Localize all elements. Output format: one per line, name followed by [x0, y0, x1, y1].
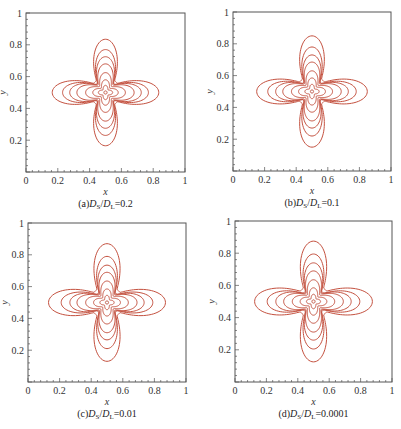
y-axis-label: y	[206, 299, 217, 305]
contour-line	[255, 241, 373, 362]
caption-d: (d)DS/DL=0.0001	[254, 408, 374, 421]
x-tick-label: 0.8	[354, 385, 367, 396]
y-tick-label: 1	[226, 216, 231, 227]
caption-prefix: (d)	[278, 408, 290, 419]
caption-value: =0.0001	[315, 408, 348, 419]
y-tick-label: 0.6	[219, 280, 232, 291]
y-tick-label: 0.2	[219, 344, 232, 355]
contour-line	[276, 263, 351, 340]
x-tick-label: 0.2	[260, 385, 273, 396]
x-axis-label: x	[310, 396, 316, 407]
x-tick-label: 0	[233, 385, 238, 396]
contour-line	[312, 300, 315, 303]
x-tick-label: 0.6	[323, 385, 336, 396]
contour-line	[267, 254, 360, 349]
x-tick-label: 0.4	[292, 385, 305, 396]
contour-line	[292, 280, 334, 323]
plot-frame	[235, 221, 392, 382]
x-tick-label: 1	[390, 385, 395, 396]
caption-num-sub: S	[297, 413, 301, 421]
y-tick-label: 0.4	[219, 312, 232, 323]
y-tick-label: 0.8	[219, 248, 232, 259]
contour-plot-d: 00.20.40.60.810.20.40.60.81xy	[0, 0, 401, 429]
contour-line	[306, 294, 320, 309]
